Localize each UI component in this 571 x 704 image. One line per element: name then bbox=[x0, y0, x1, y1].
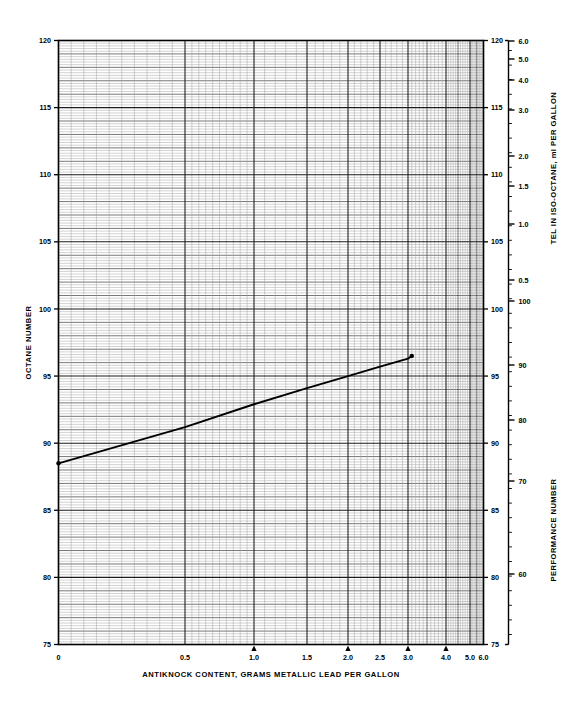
left-axis-title: OCTANE NUMBER bbox=[24, 305, 33, 379]
svg-text:75: 75 bbox=[43, 640, 51, 649]
svg-text:0.5: 0.5 bbox=[519, 276, 529, 285]
svg-text:75: 75 bbox=[491, 640, 499, 649]
svg-text:90: 90 bbox=[491, 439, 499, 448]
svg-text:1.5: 1.5 bbox=[519, 182, 529, 191]
svg-text:2.0: 2.0 bbox=[343, 653, 353, 662]
bottom-axis-title: ANTIKNOCK CONTENT, GRAMS METALLIC LEAD P… bbox=[142, 670, 400, 679]
svg-text:4.0: 4.0 bbox=[519, 76, 529, 85]
svg-text:105: 105 bbox=[39, 237, 51, 246]
svg-text:90: 90 bbox=[519, 361, 527, 370]
svg-text:0.5: 0.5 bbox=[180, 653, 190, 662]
svg-text:120: 120 bbox=[39, 36, 51, 45]
svg-text:110: 110 bbox=[491, 170, 503, 179]
antiknock-response-chart: 1201151101051009590858075 12011511010510… bbox=[0, 0, 571, 704]
svg-text:105: 105 bbox=[491, 237, 503, 246]
svg-text:95: 95 bbox=[491, 372, 499, 381]
chart-figure: 1201151101051009590858075 12011511010510… bbox=[0, 0, 571, 704]
svg-text:70: 70 bbox=[519, 477, 527, 486]
svg-text:100: 100 bbox=[39, 305, 51, 314]
svg-text:100: 100 bbox=[519, 297, 531, 306]
svg-text:1.0: 1.0 bbox=[519, 220, 529, 229]
svg-text:3.0: 3.0 bbox=[403, 653, 413, 662]
svg-text:6.0: 6.0 bbox=[519, 37, 529, 46]
svg-text:85: 85 bbox=[43, 506, 51, 515]
series-endpoint-marker bbox=[56, 461, 60, 465]
svg-text:100: 100 bbox=[491, 305, 503, 314]
tel-axis-title: TEL IN ISO-OCTANE, ml PER GALLON bbox=[549, 92, 558, 245]
svg-text:120: 120 bbox=[491, 36, 503, 45]
svg-text:90: 90 bbox=[43, 439, 51, 448]
svg-text:110: 110 bbox=[39, 170, 51, 179]
svg-text:1.5: 1.5 bbox=[302, 653, 312, 662]
svg-text:60: 60 bbox=[519, 570, 527, 579]
svg-text:3.0: 3.0 bbox=[519, 106, 529, 115]
svg-text:0: 0 bbox=[57, 653, 61, 662]
svg-text:1.0: 1.0 bbox=[249, 653, 259, 662]
svg-text:2.0: 2.0 bbox=[519, 152, 529, 161]
svg-text:80: 80 bbox=[519, 416, 527, 425]
performance-axis-title: PERFORMANCE NUMBER bbox=[549, 478, 558, 581]
svg-text:2.5: 2.5 bbox=[375, 653, 385, 662]
svg-text:4.0: 4.0 bbox=[441, 653, 451, 662]
svg-text:6.0: 6.0 bbox=[479, 653, 489, 662]
series-endpoint-marker bbox=[410, 354, 414, 358]
svg-text:85: 85 bbox=[491, 506, 499, 515]
svg-text:115: 115 bbox=[491, 103, 503, 112]
svg-text:95: 95 bbox=[43, 372, 51, 381]
svg-text:5.0: 5.0 bbox=[465, 653, 475, 662]
svg-text:80: 80 bbox=[43, 573, 51, 582]
svg-text:115: 115 bbox=[39, 103, 51, 112]
svg-text:5.0: 5.0 bbox=[519, 55, 529, 64]
svg-text:80: 80 bbox=[491, 573, 499, 582]
